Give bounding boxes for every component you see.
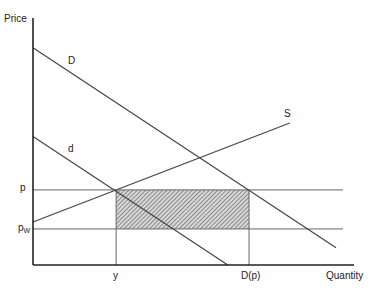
label-Dp: D(p): [241, 270, 260, 281]
label-D: D: [68, 55, 75, 66]
y-axis-label: Price: [4, 13, 27, 24]
label-d: d: [68, 143, 74, 154]
x-axis-label: Quantity: [326, 270, 363, 281]
shaded-region: [116, 190, 249, 229]
supply-demand-diagram: Price Quantity D d S p pW y D(p): [0, 0, 374, 294]
label-pw: pW: [18, 222, 31, 234]
label-pw-sub: W: [24, 227, 31, 234]
label-y: y: [113, 270, 118, 281]
label-p: p: [20, 182, 26, 193]
label-S: S: [284, 108, 291, 119]
